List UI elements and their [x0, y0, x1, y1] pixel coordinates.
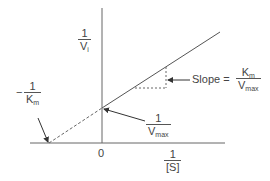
- x-axis-label-denominator: [S]: [164, 160, 181, 173]
- slope-label: Slope =: [192, 73, 230, 85]
- slope-numerator: Km: [240, 66, 257, 78]
- y-axis-label-numerator: 1: [79, 27, 89, 39]
- slope-denominator: Vmax: [236, 78, 261, 91]
- y-intercept-label: 1 Vmax: [146, 112, 171, 137]
- x-intercept-numerator: 1: [28, 80, 38, 92]
- slope-fraction: Km Vmax: [236, 66, 261, 91]
- origin-label: 0: [98, 147, 104, 159]
- x-axis-label-numerator: 1: [168, 148, 178, 160]
- y-axis-label: 1 Vi: [78, 27, 91, 52]
- y-intercept-denominator: Vmax: [146, 124, 171, 137]
- y-intercept-arrow: [104, 109, 145, 121]
- x-intercept-arrow: [38, 118, 48, 142]
- x-intercept-den-sub: m: [33, 99, 39, 106]
- y-label-den-sub: i: [87, 46, 89, 53]
- y-intercept-den-sub: max: [155, 131, 168, 138]
- x-intercept-label: 1 Km: [24, 80, 41, 105]
- y-axis-label-denominator: Vi: [78, 39, 91, 52]
- y-intercept-numerator: 1: [153, 112, 163, 124]
- x-intercept-minus-sign: −: [16, 86, 22, 98]
- x-axis-label: 1 [S]: [164, 148, 181, 173]
- extrapolated-line: [49, 108, 102, 143]
- x-intercept-denominator: Km: [24, 92, 41, 105]
- slope-num-main: K: [242, 66, 249, 78]
- regression-line: [102, 32, 220, 108]
- slope-den-sub: max: [245, 85, 258, 92]
